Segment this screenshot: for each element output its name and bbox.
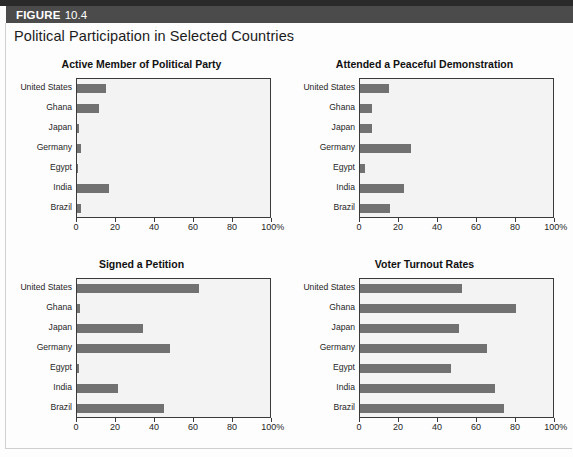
category-label: Egypt [50, 362, 72, 372]
axis-tick-label: 0 [73, 222, 78, 232]
category-label: Japan [332, 322, 355, 332]
axis-tick-label: 80 [510, 222, 520, 232]
bar-row: Germany [77, 339, 270, 359]
axis-tick-label: 100% [261, 422, 284, 432]
axis-tick-label: 40 [149, 422, 159, 432]
axis-tick-label: 60 [471, 422, 481, 432]
axis-tick-label: 100% [261, 222, 284, 232]
axis-tick-label: 0 [356, 422, 361, 432]
category-label: Japan [332, 122, 355, 132]
axis-tick-label: 100% [544, 222, 567, 232]
plot-area: United StatesGhanaJapanGermanyEgyptIndia… [359, 78, 554, 218]
bar [360, 104, 372, 113]
axis-tick-label: 60 [188, 222, 198, 232]
bar [360, 164, 365, 173]
bar-rows: United StatesGhanaJapanGermanyEgyptIndia… [360, 79, 553, 217]
bar [360, 84, 389, 93]
category-label: United States [20, 82, 72, 92]
category-label: United States [303, 82, 355, 92]
bar-row: Japan [77, 119, 270, 139]
plot-area: United StatesGhanaJapanGermanyEgyptIndia… [76, 278, 271, 418]
figure-number: 10.4 [65, 9, 87, 21]
category-label: Ghana [329, 302, 355, 312]
figure-container: FIGURE 10.4 Political Participation in S… [0, 0, 573, 457]
bar-row: Germany [360, 339, 553, 359]
chart-title: Attended a Peaceful Demonstration [283, 58, 566, 70]
category-label: Ghana [329, 102, 355, 112]
category-label: Germany [37, 142, 72, 152]
bar-row: India [360, 179, 553, 199]
category-label: Ghana [46, 102, 72, 112]
axis-tick-label: 80 [227, 422, 237, 432]
category-label: Egypt [50, 162, 72, 172]
figure-header-bar: FIGURE 10.4 [6, 6, 573, 23]
category-label: United States [20, 282, 72, 292]
bar-row: United States [77, 279, 270, 299]
bar-rows: United StatesGhanaJapanGermanyEgyptIndia… [77, 79, 270, 217]
bar-row: Germany [77, 139, 270, 159]
x-axis-labels: 020406080100% [359, 222, 554, 236]
bar [77, 84, 106, 93]
chart-title: Active Member of Political Party [0, 58, 283, 70]
bar [77, 144, 81, 153]
bar [77, 404, 164, 413]
axis-tick-label: 0 [73, 422, 78, 432]
category-label: India [53, 182, 72, 192]
category-label: Germany [320, 342, 355, 352]
bar-row: Japan [360, 119, 553, 139]
category-label: Germany [37, 342, 72, 352]
chart-panel-active-member: Active Member of Political Party United … [0, 58, 283, 243]
bar [77, 104, 99, 113]
axis-tick-label: 20 [110, 422, 120, 432]
category-label: Brazil [334, 202, 356, 212]
category-label: Ghana [46, 302, 72, 312]
bar [360, 204, 390, 213]
x-axis-labels: 020406080100% [76, 422, 271, 436]
category-label: Egypt [333, 362, 355, 372]
bar-row: Ghana [360, 99, 553, 119]
figure-label: FIGURE [16, 9, 61, 21]
axis-tick-label: 40 [432, 422, 442, 432]
bar-row: Japan [360, 319, 553, 339]
chart-panel-voter-turnout: Voter Turnout Rates United StatesGhanaJa… [283, 258, 566, 443]
bar [360, 364, 451, 373]
bar [360, 144, 411, 153]
bar [77, 204, 81, 213]
bar [360, 344, 487, 353]
bar [77, 324, 143, 333]
figure-title: Political Participation in Selected Coun… [14, 28, 294, 44]
bar-row: Egypt [77, 359, 270, 379]
bar [360, 384, 495, 393]
category-label: Brazil [51, 402, 73, 412]
axis-tick-label: 20 [110, 222, 120, 232]
axis-tick-label: 60 [188, 422, 198, 432]
bar [77, 304, 80, 313]
bar-row: Ghana [360, 299, 553, 319]
bar [77, 364, 79, 373]
bar-row: India [360, 379, 553, 399]
frame-bottom-rule [5, 448, 572, 449]
bar-row: India [77, 179, 270, 199]
axis-tick-label: 40 [432, 222, 442, 232]
category-label: United States [303, 282, 355, 292]
axis-tick-label: 20 [393, 422, 403, 432]
bar-row: Ghana [77, 299, 270, 319]
bar [360, 124, 372, 133]
category-label: India [53, 382, 72, 392]
bar-rows: United StatesGhanaJapanGermanyEgyptIndia… [77, 279, 270, 417]
bar [360, 284, 462, 293]
axis-tick-label: 80 [227, 222, 237, 232]
bar-row: United States [360, 79, 553, 99]
bar-row: Brazil [77, 399, 270, 419]
category-label: Brazil [334, 402, 356, 412]
bar-row: Egypt [360, 159, 553, 179]
bar [360, 404, 504, 413]
category-label: Germany [320, 142, 355, 152]
axis-tick-label: 100% [544, 422, 567, 432]
category-label: Brazil [51, 202, 73, 212]
bar [360, 304, 516, 313]
axis-tick-label: 40 [149, 222, 159, 232]
bar [77, 164, 78, 173]
category-label: Japan [49, 122, 72, 132]
bar-row: Egypt [77, 159, 270, 179]
